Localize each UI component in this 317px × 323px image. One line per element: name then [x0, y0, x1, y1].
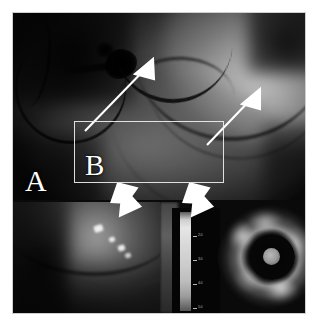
- panel-label-a: A: [25, 166, 47, 196]
- figure-canvas: A B C 1.0: [0, 0, 317, 323]
- tick-mark-icon: [193, 212, 197, 213]
- panel-d-ivus: 1.0 2.0 3.0 4.0 5.0: [160, 202, 305, 313]
- scale-tick-group: 1.0 2.0 3.0 4.0 5.0: [193, 208, 220, 313]
- scale-tick-label: 3.0: [198, 258, 202, 262]
- panel-c-magnified-angiogram: C: [13, 202, 160, 313]
- ivus-cross-section-image: [218, 205, 305, 309]
- ivus-outer-vignette: [218, 205, 305, 309]
- vignette-top-left: [13, 13, 133, 103]
- tick-mark-icon: [193, 236, 197, 237]
- grayscale-depth-scale: [180, 212, 191, 311]
- scale-tick-5: 5.0: [193, 305, 202, 311]
- scale-tick-label: 2.0: [198, 234, 202, 238]
- scale-tick-4: 4.0: [193, 281, 202, 287]
- scale-tick-label: 5.0: [198, 306, 202, 310]
- vignette-bottom-right: [263, 123, 305, 200]
- tick-mark-icon: [193, 308, 197, 309]
- vignette-top-right: [248, 13, 305, 73]
- tick-mark-icon: [193, 284, 197, 285]
- scale-tick-label: 1.0: [198, 210, 202, 214]
- scale-tick-label: 4.0: [198, 282, 202, 286]
- panel-a-angiogram: A B: [13, 13, 305, 200]
- scale-tick-3: 3.0: [193, 257, 202, 263]
- panel-label-b: B: [85, 151, 104, 180]
- tick-mark-icon: [193, 260, 197, 261]
- image-plate: A B C 1.0: [13, 13, 305, 313]
- scale-tick-2: 2.0: [193, 233, 202, 239]
- scale-tick-1: 1.0: [193, 209, 202, 215]
- panel-c-shadow-bottom: [13, 264, 160, 313]
